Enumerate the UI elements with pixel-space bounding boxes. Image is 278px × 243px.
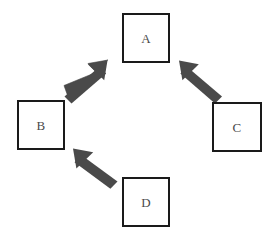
arrow-b-to-a — [64, 60, 108, 104]
cycle-diagram: A B C D — [0, 0, 278, 243]
node-label-d: D — [141, 196, 151, 209]
node-label-a: A — [141, 32, 151, 45]
node-label-b: B — [37, 119, 46, 132]
arrow-c-to-a — [179, 61, 222, 104]
node-box-c[interactable]: C — [212, 102, 262, 152]
arrow-d-to-b — [73, 149, 118, 189]
node-box-b[interactable]: B — [17, 100, 65, 150]
node-label-c: C — [233, 121, 242, 134]
node-box-d[interactable]: D — [122, 177, 170, 227]
node-box-a[interactable]: A — [122, 13, 170, 63]
